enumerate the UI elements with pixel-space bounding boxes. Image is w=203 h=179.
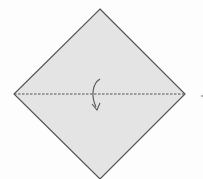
origami-diagram	[0, 0, 203, 179]
diagram-canvas	[0, 0, 203, 179]
edge-marker-dot	[201, 95, 203, 97]
